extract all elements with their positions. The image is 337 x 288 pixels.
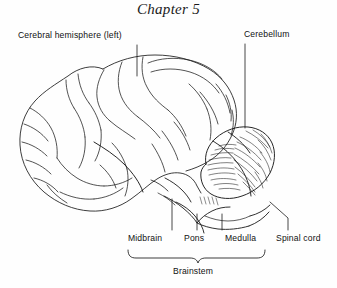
label-medulla: Medulla	[225, 233, 256, 243]
cerebellum-folia-lower	[234, 130, 270, 195]
label-cerebellum: Cerebellum	[244, 29, 289, 39]
cerebellar-peduncle-hatching	[200, 197, 218, 205]
lateral-fissure	[94, 142, 143, 192]
cerebellum	[201, 127, 275, 199]
figure-page: Chapter 5	[0, 0, 337, 288]
label-brainstem: Brainstem	[173, 266, 213, 276]
stem-fold	[158, 193, 175, 205]
medulla-outline	[197, 223, 249, 229]
label-pons: Pons	[184, 233, 204, 243]
brain-diagram	[0, 0, 337, 288]
pons-bulge	[176, 202, 204, 233]
leader-line-spinal-cord	[270, 202, 288, 230]
cerebellum-folia-posterior	[255, 134, 272, 188]
medulla-inner	[205, 216, 250, 221]
brainstem-brace	[128, 250, 265, 263]
label-spinal-cord: Spinal cord	[276, 233, 321, 243]
brainstem	[151, 178, 250, 233]
spinal-cord	[249, 205, 270, 226]
spinal-cord-upper	[249, 212, 269, 226]
label-cerebral-hemisphere: Cerebral hemisphere (left)	[18, 30, 122, 40]
label-midbrain: Midbrain	[128, 233, 162, 243]
